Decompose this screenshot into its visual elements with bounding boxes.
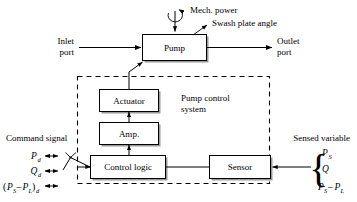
command-input-3-close-paren: ) [32, 181, 35, 193]
sensed-variable-1-base: P [321, 148, 328, 158]
inlet-port-label-line1: Inlet [58, 36, 75, 46]
sensor-label: Sensor [228, 162, 253, 172]
pump-control-system-label-line2: system [181, 104, 206, 114]
sensor-block: Sensor [210, 156, 273, 181]
pump-block: Pump [143, 35, 209, 63]
actuator-block: Actuator [100, 90, 161, 114]
control-logic-block: Control logic [91, 156, 168, 181]
sensed-variable-3-minus: – [327, 182, 333, 192]
selector-switch-upper-contact-2 [71, 153, 77, 158]
sensed-variable-row-1: P S [321, 148, 333, 160]
outlet-port-group: Outlet port [207, 36, 300, 57]
command-input-2-subscript: d [38, 171, 42, 178]
sensed-variable-3-p2-subscript: L [340, 187, 345, 194]
sensed-variable-1-subscript: S [329, 153, 333, 160]
inlet-port-label-line2: port [60, 47, 75, 57]
swash-plate-angle-group: Swash plate angle [193, 18, 277, 35]
sensed-variable-2-base: Q [322, 164, 329, 174]
sensed-variable-label: Sensed variable [293, 133, 350, 143]
command-input-3-p2: P [22, 182, 29, 192]
selector-switch-blade[interactable] [63, 158, 71, 171]
pump-control-system-diagram: Mech. power Pump Swash plate angle Inlet… [0, 0, 357, 202]
command-input-row-1: P d [30, 151, 58, 163]
amp-label: Amp. [119, 129, 139, 139]
command-input-3-minus: – [16, 182, 22, 192]
mech-power-label: Mech. power [190, 5, 237, 15]
inlet-port-group: Inlet port [58, 36, 142, 57]
selector-switch-icon[interactable] [63, 153, 91, 171]
control-logic-label: Control logic [104, 162, 152, 172]
command-input-1-base: P [30, 151, 37, 161]
sensed-variable-3-p1: P [317, 182, 324, 192]
outlet-port-label-line2: port [277, 47, 292, 57]
swash-plate-angle-label: Swash plate angle [212, 18, 277, 28]
command-input-3-p1: P [6, 182, 13, 192]
outlet-port-label-line1: Outlet [277, 36, 300, 46]
command-input-2-base: Q [31, 166, 38, 176]
actuator-link-diagonal [129, 62, 143, 72]
sensed-variable-3-p2: P [334, 182, 341, 192]
swash-plate-angle-arrow [193, 25, 207, 35]
sensed-variable-row-3: P S – P L [317, 182, 345, 194]
actuator-label: Actuator [113, 96, 145, 106]
command-input-1-subscript: d [38, 156, 42, 163]
pump-label: Pump [164, 43, 186, 53]
figure-canvas: Mech. power Pump Swash plate angle Inlet… [0, 0, 357, 202]
command-input-row-3: ( P S – P L ) d [3, 181, 58, 194]
command-input-row-2: Q d [31, 166, 59, 178]
amp-block: Amp. [100, 123, 161, 147]
command-input-3-subscript: d [36, 187, 40, 194]
pump-control-system-label-line1: Pump control [181, 93, 230, 103]
sensed-variable-row-2: Q [322, 164, 329, 174]
selector-switch-output-wire [71, 158, 91, 168]
command-signal-label: Command signal [6, 133, 68, 143]
